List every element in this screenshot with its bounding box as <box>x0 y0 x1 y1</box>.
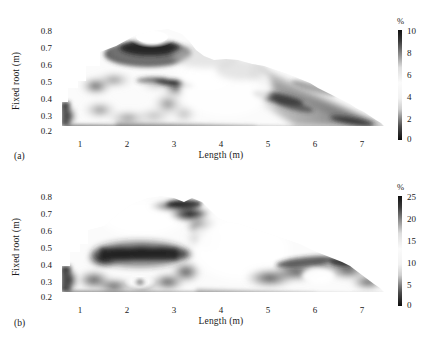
x-axis-label-b: Length (m) <box>56 316 386 326</box>
y-tick-a-5: 0.3 <box>26 111 52 121</box>
colorbar-gradient-a <box>398 30 402 140</box>
y-tick-b-2: 0.6 <box>26 226 52 236</box>
panel-b: Fixed root (m) 0.8 0.7 0.6 0.5 0.4 0.3 0… <box>0 168 437 336</box>
y-tick-b-4: 0.4 <box>26 260 52 270</box>
x-tick-a-6: 7 <box>352 139 372 149</box>
x-tick-a-5: 6 <box>305 139 325 149</box>
y-tick-a-6: 0.2 <box>26 126 52 136</box>
panel-tag-a: (a) <box>14 151 25 161</box>
colorbar-tick-b-2: 15 <box>407 236 416 246</box>
y-tick-a-4: 0.4 <box>26 94 52 104</box>
panel-a: Fixed root (m) 0.8 0.7 0.6 0.5 0.4 0.3 0… <box>0 0 437 168</box>
colorbar-tick-a-3: 4 <box>407 92 412 102</box>
y-axis-label-b: Fixed root (m) <box>8 192 24 302</box>
x-tick-a-3: 4 <box>211 139 231 149</box>
colorbar-gradient-b <box>398 196 402 306</box>
x-tick-a-1: 2 <box>117 139 137 149</box>
y-tick-a-1: 0.7 <box>26 43 52 53</box>
y-tick-a-2: 0.6 <box>26 60 52 70</box>
y-tick-b-6: 0.2 <box>26 292 52 302</box>
colorbar-tick-b-1: 20 <box>407 214 416 224</box>
heatmap-a <box>56 26 386 136</box>
y-tick-a-0: 0.8 <box>26 26 52 36</box>
y-axis-label-a: Fixed root (m) <box>8 26 24 136</box>
x-tick-a-4: 5 <box>258 139 278 149</box>
x-tick-a-0: 1 <box>70 139 90 149</box>
y-tick-b-5: 0.3 <box>26 277 52 287</box>
x-tick-a-2: 3 <box>164 139 184 149</box>
colorbar-a: % <box>398 26 437 148</box>
colorbar-b: % <box>398 192 437 314</box>
colorbar-tick-b-0: 25 <box>407 192 416 202</box>
colorbar-tick-b-3: 10 <box>407 258 416 268</box>
x-tick-b-6: 7 <box>352 305 372 315</box>
colorbar-tick-a-2: 6 <box>407 70 412 80</box>
colorbar-tick-a-1: 8 <box>407 48 412 58</box>
y-tick-b-3: 0.5 <box>26 243 52 253</box>
colorbar-tick-a-0: 10 <box>407 26 416 36</box>
y-tick-a-3: 0.5 <box>26 77 52 87</box>
x-axis-label-a: Length (m) <box>56 150 386 160</box>
y-tick-b-0: 0.8 <box>26 192 52 202</box>
y-tick-b-1: 0.7 <box>26 209 52 219</box>
colorbar-tick-b-5: 0 <box>407 300 412 310</box>
colorbar-tick-a-5: 0 <box>407 134 412 144</box>
x-tick-b-0: 1 <box>70 305 90 315</box>
colorbar-unit-a: % <box>397 16 404 26</box>
colorbar-tick-a-4: 2 <box>407 114 412 124</box>
x-tick-b-3: 4 <box>211 305 231 315</box>
colorbar-tick-b-4: 5 <box>407 280 412 290</box>
panel-tag-b: (b) <box>14 318 25 328</box>
x-tick-b-4: 5 <box>258 305 278 315</box>
x-tick-b-2: 3 <box>164 305 184 315</box>
x-tick-b-1: 2 <box>117 305 137 315</box>
colorbar-unit-b: % <box>397 182 404 192</box>
x-tick-b-5: 6 <box>305 305 325 315</box>
heatmap-b <box>56 192 386 302</box>
